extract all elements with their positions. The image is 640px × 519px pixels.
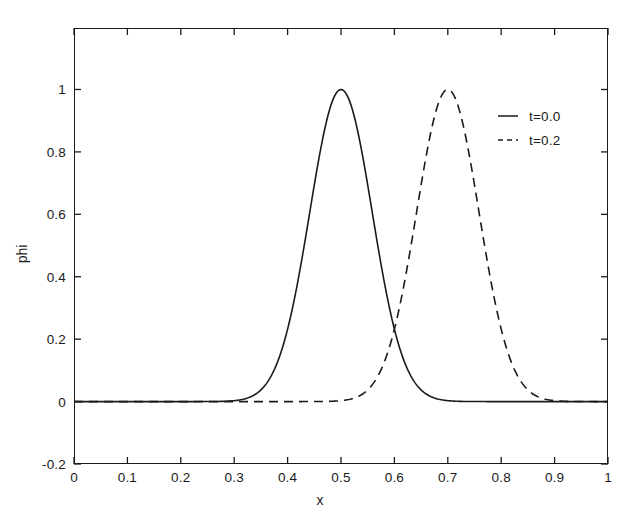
x-tick-label: 0.3	[225, 470, 244, 485]
y-axis-title: phi	[14, 234, 30, 274]
legend-label: t=0.0	[529, 109, 560, 124]
y-tick-label: 0.4	[47, 269, 66, 284]
x-tick-label: 1	[604, 470, 612, 485]
x-tick-label: 0.9	[545, 470, 564, 485]
x-tick-label: 0.1	[118, 470, 137, 485]
x-tick-label: 0.5	[331, 470, 350, 485]
legend: t=0.0t=0.2	[497, 104, 607, 152]
legend-label: t=0.2	[529, 133, 560, 148]
y-tick-label: 1	[58, 82, 66, 97]
y-axis-title-wrap: phi	[10, 0, 32, 519]
chart-figure: -0.200.20.40.60.81 phi 00.10.20.30.40.50…	[0, 0, 640, 519]
x-tick-label: 0.7	[438, 470, 457, 485]
tick-marks	[74, 28, 608, 464]
x-axis-title: x	[0, 492, 640, 508]
legend-line-sample-dashed	[497, 134, 519, 146]
x-tick-label: 0.8	[492, 470, 511, 485]
x-tick-label: 0.6	[385, 470, 404, 485]
y-tick-label: 0.2	[47, 332, 66, 347]
legend-entry-2: t=0.2	[497, 128, 607, 152]
legend-line-sample-solid	[497, 110, 519, 122]
legend-entry-1: t=0.0	[497, 104, 607, 128]
x-tick-label: 0	[70, 470, 78, 485]
y-tick-label: 0.6	[47, 207, 66, 222]
y-tick-label: 0	[58, 394, 66, 409]
x-tick-label: 0.2	[171, 470, 190, 485]
plot-canvas	[74, 28, 608, 464]
y-tick-label: -0.2	[42, 457, 66, 472]
x-tick-label: 0.4	[278, 470, 297, 485]
y-tick-label: 0.8	[47, 144, 66, 159]
